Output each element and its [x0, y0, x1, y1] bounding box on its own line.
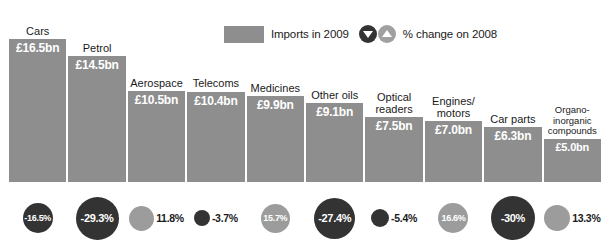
- change-bubble-cell: 15.7%: [247, 190, 304, 246]
- change-bubble-label: -30%: [501, 212, 525, 224]
- change-bubble-cell: -29.3%: [68, 190, 125, 246]
- imports-chart: Imports in 2009 % change on 2008 Cars£16…: [0, 0, 610, 249]
- change-bubble-cell: -30%: [484, 190, 541, 246]
- legend-change-label: % change on 2008: [403, 28, 497, 40]
- change-bubble-label: 13.3%: [572, 212, 600, 224]
- change-bubble-negative: -16.5%: [23, 203, 53, 233]
- change-bubble-cell: 16.6%: [425, 190, 482, 246]
- change-bubble-negative: [371, 209, 389, 227]
- change-bubble-label: 16.6%: [441, 213, 465, 223]
- change-bubble-label: -3.7%: [212, 212, 238, 224]
- change-bubble-negative: [194, 210, 210, 226]
- change-bubble-negative: -30%: [491, 196, 535, 240]
- legend-change-icons: [359, 25, 396, 43]
- legend-imports-swatch: [224, 26, 264, 43]
- change-bubble-cell: -27.4%: [306, 190, 363, 246]
- change-bubble-positive: [544, 205, 570, 231]
- change-bubble-cell: -5.4%: [365, 190, 422, 246]
- change-bubble-cell: -3.7%: [187, 190, 244, 246]
- change-bubble-label: 11.8%: [156, 212, 184, 224]
- change-bubble-label: -27.4%: [318, 212, 351, 224]
- change-bubble-cell: -16.5%: [9, 190, 66, 246]
- chart-legend: Imports in 2009 % change on 2008: [224, 24, 497, 44]
- change-bubble-negative: -27.4%: [314, 198, 355, 239]
- change-bubble-label: -5.4%: [391, 212, 417, 224]
- change-bubble-cell: 13.3%: [544, 190, 601, 246]
- legend-imports-label: Imports in 2009: [271, 28, 349, 40]
- change-bubble-negative: -29.3%: [76, 197, 119, 240]
- triangle-down-icon: [359, 25, 377, 43]
- change-bubble-label: 15.7%: [263, 213, 287, 223]
- triangle-up-icon: [378, 25, 396, 43]
- change-bubble-label: -29.3%: [81, 212, 114, 224]
- change-bubble-cell: 11.8%: [128, 190, 185, 246]
- change-bubble-positive: [129, 206, 154, 231]
- change-bubble-positive: 16.6%: [438, 203, 468, 233]
- change-bubble-positive: 15.7%: [261, 204, 290, 233]
- change-bubble-label: -16.5%: [24, 213, 51, 223]
